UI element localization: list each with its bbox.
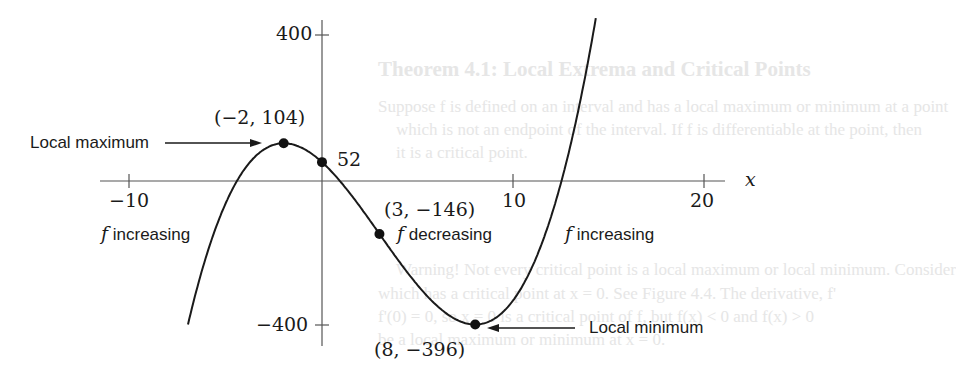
- region-text: increasing: [572, 225, 654, 244]
- x-tick-label-10: 10: [502, 191, 526, 210]
- f-symbol: f: [397, 222, 404, 244]
- label-local-min-point: (8, −396): [374, 340, 465, 359]
- data-point-1: [317, 157, 327, 167]
- region-label-increasing-right: f increasing: [565, 224, 654, 243]
- region-label-increasing-left: f increasing: [101, 224, 190, 243]
- annotation-local-minimum: Local minimum: [589, 319, 703, 336]
- function-curve: [188, 18, 596, 324]
- label-inflection-point: (3, −146): [384, 200, 475, 219]
- arrow-local-max: [165, 139, 262, 147]
- region-label-decreasing: f decreasing: [397, 224, 492, 243]
- annotation-local-maximum: Local maximum: [30, 134, 149, 151]
- x-tick-label-20: 20: [690, 191, 714, 210]
- region-text: decreasing: [404, 225, 492, 244]
- data-point-2: [374, 229, 384, 239]
- f-symbol: f: [101, 222, 108, 244]
- data-point-3: [470, 320, 480, 330]
- arrow-local-min: [487, 324, 575, 332]
- x-tick-label-neg10: −10: [109, 191, 149, 210]
- x-axis-label: x: [745, 170, 756, 189]
- data-point-0: [279, 138, 289, 148]
- f-symbol: f: [565, 222, 572, 244]
- y-tick-label-neg400: −400: [256, 315, 308, 334]
- y-tick-label-400: 400: [276, 24, 312, 43]
- label-y-intercept: 52: [337, 150, 361, 169]
- label-local-max-point: (−2, 104): [214, 108, 305, 127]
- region-text: increasing: [108, 225, 190, 244]
